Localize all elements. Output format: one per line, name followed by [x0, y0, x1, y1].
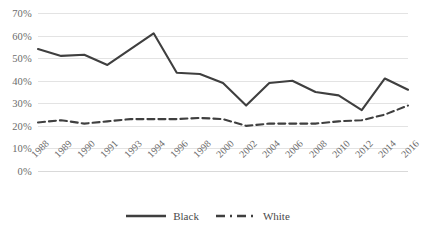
y-tick-label: 40%	[12, 75, 32, 86]
y-tick-label: 20%	[12, 120, 32, 131]
y-tick-label: 60%	[12, 30, 32, 41]
y-tick-label: 30%	[12, 98, 32, 109]
y-tick-label: 0%	[18, 166, 32, 177]
y-tick-label: 70%	[12, 8, 32, 19]
legend-swatch-dashed-icon	[215, 211, 257, 221]
y-tick-label: 50%	[12, 53, 32, 64]
legend-item-black[interactable]: Black	[125, 210, 199, 222]
legend-label-white: White	[263, 210, 290, 222]
legend-item-white[interactable]: White	[215, 210, 290, 222]
series-line-white	[38, 106, 408, 126]
legend-swatch-solid-icon	[125, 211, 167, 221]
chart-legend: Black White	[0, 205, 415, 227]
x-axis: 1988198919901991199319941996199820002002…	[38, 152, 408, 202]
series-line-black	[38, 33, 408, 110]
legend-label-black: Black	[173, 210, 199, 222]
